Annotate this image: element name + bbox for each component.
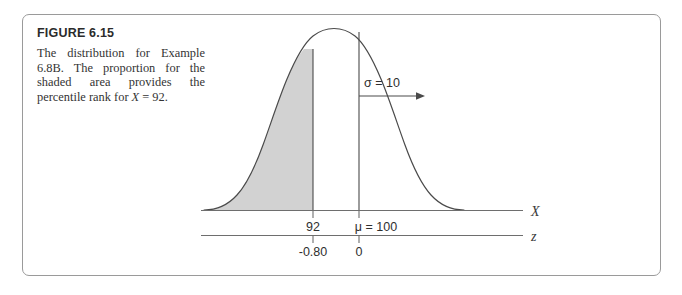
x-axis-tick-label-92: 92 — [306, 220, 320, 234]
shaded-tail-region — [204, 49, 313, 210]
figure-frame: FIGURE 6.15 The distribution for Example… — [22, 14, 661, 276]
sigma-annotation-label: σ = 10 — [364, 76, 400, 90]
x-axis-tick-label-mean: μ = 100 — [355, 220, 397, 234]
x-axis-name-label: X — [530, 204, 540, 219]
normal-distribution-plot: σ = 10 X 92 μ = 100 z -0.80 0 — [23, 15, 662, 277]
normal-curve — [204, 29, 464, 211]
z-axis-tick-label-zero: 0 — [356, 245, 363, 259]
z-axis-tick-label-minus080: -0.80 — [299, 245, 328, 259]
z-axis-name-label: z — [530, 229, 537, 244]
sigma-arrow-head — [416, 92, 425, 100]
